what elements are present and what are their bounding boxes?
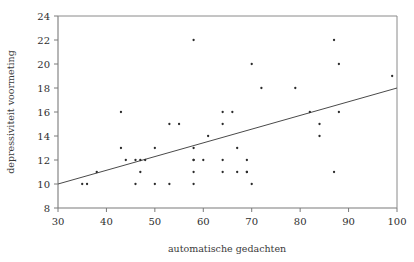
data-point (222, 159, 224, 161)
y-tick-label: 14 (37, 131, 50, 142)
data-point (202, 159, 204, 161)
data-point (192, 159, 194, 161)
x-axis-tick-labels: 30405060708090100 (52, 216, 407, 227)
regression-line (58, 88, 397, 184)
x-tick-label: 100 (387, 216, 406, 227)
y-tick-label: 8 (44, 203, 50, 214)
data-point (168, 123, 170, 125)
y-tick-label: 20 (37, 59, 50, 70)
data-point (81, 183, 83, 185)
data-point (236, 147, 238, 149)
data-point (260, 87, 262, 89)
data-point (120, 111, 122, 113)
data-point (333, 39, 335, 41)
x-tick-label: 60 (197, 216, 210, 227)
y-tick-label: 18 (37, 83, 50, 94)
scatter-plot-figure: 81012141618202224 30405060708090100 auto… (0, 0, 414, 262)
data-points (81, 39, 393, 185)
data-point (192, 147, 194, 149)
y-tick-label: 24 (37, 11, 50, 22)
y-axis-title: depressiviteit voormeting (5, 50, 16, 174)
data-point (207, 135, 209, 137)
data-point (154, 183, 156, 185)
data-point (222, 111, 224, 113)
data-point (222, 123, 224, 125)
x-tick-label: 90 (342, 216, 355, 227)
data-point (120, 147, 122, 149)
x-axis-title: automatische gedachten (168, 243, 286, 254)
data-point (246, 159, 248, 161)
data-point (333, 171, 335, 173)
data-point (318, 123, 320, 125)
data-point (246, 171, 248, 173)
y-tick-label: 12 (37, 155, 50, 166)
data-point (125, 159, 127, 161)
y-tick-label: 16 (37, 107, 50, 118)
data-point (192, 183, 194, 185)
x-tick-label: 30 (52, 216, 65, 227)
data-point (139, 171, 141, 173)
data-point (134, 159, 136, 161)
y-tick-label: 10 (37, 179, 50, 190)
data-point (318, 135, 320, 137)
y-axis-ticks (54, 16, 58, 208)
x-tick-label: 50 (148, 216, 161, 227)
data-point (338, 63, 340, 65)
regression-line-segment (58, 88, 397, 184)
plot-frame (58, 16, 397, 208)
data-point (251, 63, 253, 65)
data-point (192, 171, 194, 173)
data-point (96, 171, 98, 173)
x-axis-ticks (58, 208, 397, 212)
data-point (139, 159, 141, 161)
x-tick-label: 70 (245, 216, 258, 227)
y-tick-label: 22 (37, 35, 50, 46)
data-point (222, 171, 224, 173)
y-axis-tick-labels: 81012141618202224 (37, 11, 50, 214)
data-point (236, 171, 238, 173)
data-point (134, 183, 136, 185)
data-point (231, 111, 233, 113)
data-point (86, 183, 88, 185)
data-point (391, 75, 393, 77)
data-point (178, 123, 180, 125)
scatter-plot-canvas: 81012141618202224 30405060708090100 auto… (0, 0, 414, 262)
data-point (154, 147, 156, 149)
data-point (251, 183, 253, 185)
data-point (294, 87, 296, 89)
x-tick-label: 80 (294, 216, 307, 227)
data-point (192, 39, 194, 41)
data-point (144, 159, 146, 161)
data-point (338, 111, 340, 113)
data-point (168, 183, 170, 185)
data-point (309, 111, 311, 113)
x-tick-label: 40 (100, 216, 113, 227)
